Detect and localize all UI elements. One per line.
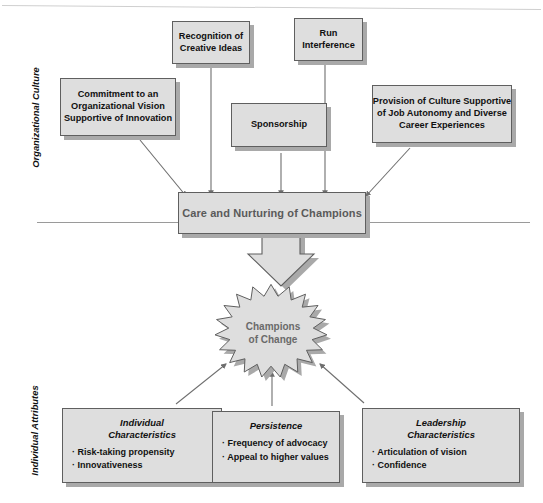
- attribute-heading-line: Persistence: [222, 420, 330, 432]
- factor-line: Sponsorship: [251, 119, 307, 131]
- attribute-bullet: · Risk-taking propensity: [72, 446, 212, 460]
- factor-line: Provision of Culture Supportive: [373, 96, 511, 108]
- factor-box-commitment[interactable]: Commitment to an Organizational Vision S…: [60, 78, 176, 136]
- bullet-text: Risk-taking propensity: [78, 447, 175, 457]
- bullet-text: Articulation of vision: [377, 447, 467, 457]
- central-banner-label: Care and Nurturing of Champions: [182, 206, 362, 220]
- band-label-individual-attributes: Individual Attributes: [29, 361, 40, 501]
- attribute-bullet: · Innovativeness: [72, 459, 212, 473]
- attribute-heading: Persistence: [222, 420, 330, 432]
- bullet-glyph: ·: [372, 460, 375, 470]
- bullet-text: Innovativeness: [78, 460, 143, 470]
- connector-commitment-to-central: [140, 140, 186, 196]
- attribute-heading-line: Leadership: [372, 417, 510, 429]
- attribute-heading: Leadership Characteristics: [372, 417, 510, 441]
- band-divider-left: [37, 222, 178, 223]
- attribute-box-leadership-characteristics[interactable]: Leadership Characteristics · Articulatio…: [362, 408, 520, 483]
- attribute-box-individual-characteristics[interactable]: Individual Characteristics · Risk-taking…: [62, 408, 222, 483]
- factor-line: Supportive of Innovation: [64, 113, 172, 125]
- band-label-organizational-culture: Organizational Culture: [30, 48, 41, 188]
- factor-box-sponsorship[interactable]: Sponsorship: [231, 103, 327, 147]
- factor-line: Commitment to an: [78, 89, 159, 101]
- band-divider-right: [366, 222, 530, 223]
- factor-box-provision-of-culture[interactable]: Provision of Culture Supportive of Job A…: [372, 85, 512, 143]
- starburst-shape: [212, 283, 334, 383]
- bullet-glyph: ·: [72, 447, 75, 457]
- attribute-heading: Individual Characteristics: [72, 417, 212, 441]
- factor-line: Creative Ideas: [180, 43, 242, 55]
- factor-line: Recognition of: [179, 31, 243, 43]
- bullet-glyph: ·: [222, 438, 225, 448]
- attribute-bullet: · Articulation of vision: [372, 446, 510, 460]
- attribute-heading-line: Individual: [72, 417, 212, 429]
- bullet-glyph: ·: [72, 460, 75, 470]
- factor-line: Career Experiences: [399, 120, 485, 132]
- diagram-canvas: Organizational Culture Individual Attrib…: [0, 0, 543, 503]
- bullet-text: Frequency of advocacy: [228, 438, 328, 448]
- attribute-heading-line: Characteristics: [372, 429, 510, 441]
- attribute-bullet: · Frequency of advocacy: [222, 437, 330, 451]
- factor-box-run-interference[interactable]: Run Interference: [294, 18, 363, 61]
- attribute-box-persistence[interactable]: Persistence · Frequency of advocacy · Ap…: [212, 411, 340, 483]
- attribute-bullet: · Confidence: [372, 459, 510, 473]
- factor-line: Run: [320, 28, 338, 40]
- factor-box-recognition[interactable]: Recognition of Creative Ideas: [172, 21, 250, 64]
- factor-line: Organizational Vision: [71, 101, 165, 113]
- bullet-text: Confidence: [378, 460, 427, 470]
- factor-line: of Job Autonomy and Diverse: [377, 108, 507, 120]
- central-banner-care-and-nurturing[interactable]: Care and Nurturing of Champions: [178, 192, 366, 234]
- attribute-bullet: · Appeal to higher values: [222, 451, 330, 465]
- bullet-glyph: ·: [222, 452, 225, 462]
- attribute-heading-line: Characteristics: [72, 429, 212, 441]
- starburst-champions-of-change[interactable]: Champions of Change: [212, 283, 334, 383]
- connector-provision-to-central: [366, 148, 410, 196]
- bullet-glyph: ·: [372, 447, 375, 457]
- bullet-text: Appeal to higher values: [227, 452, 329, 462]
- factor-line: Interference: [302, 40, 355, 52]
